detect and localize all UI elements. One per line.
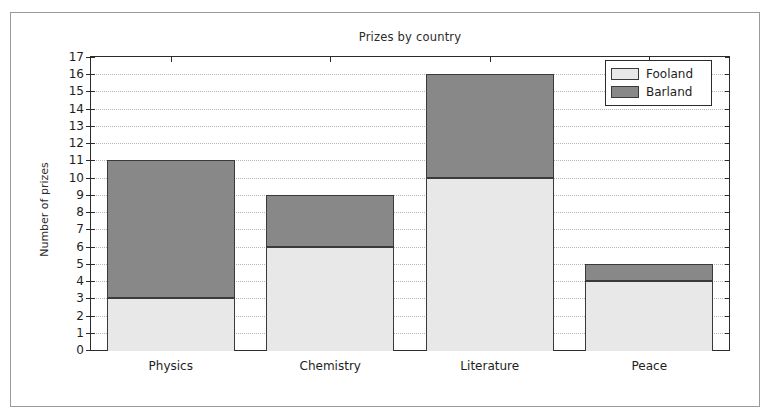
x-axis-tick-label-peace: Peace	[631, 359, 667, 373]
x-axis-tick-label-chemistry: Chemistry	[300, 359, 361, 373]
x-axis-tick-label-physics: Physics	[149, 359, 193, 373]
bar-segment-literature-fooland[interactable]	[426, 178, 554, 352]
bar-segment-peace-fooland[interactable]	[585, 281, 713, 351]
legend-item-barland[interactable]: Barland	[611, 84, 706, 101]
y-axis-label: Number of prizes	[38, 130, 51, 290]
chart-title: Prizes by country	[90, 30, 730, 44]
legend-label: Barland	[646, 86, 692, 98]
legend-label: Fooland	[646, 68, 693, 80]
y-axis-tick-mark-right	[725, 350, 729, 351]
bar-segment-chemistry-barland[interactable]	[266, 195, 394, 247]
bar-segment-physics-fooland[interactable]	[107, 298, 235, 351]
bar-segment-physics-barland[interactable]	[107, 160, 235, 298]
bar-segment-peace-barland[interactable]	[585, 264, 713, 281]
chart-legend[interactable]: FoolandBarland	[605, 60, 712, 106]
legend-swatch-barland	[611, 86, 639, 98]
x-axis-tick-label-literature: Literature	[460, 359, 519, 373]
legend-item-fooland[interactable]: Fooland	[611, 66, 706, 83]
bar-segment-literature-barland[interactable]	[426, 74, 554, 177]
y-axis-tick-mark-inner	[91, 350, 95, 351]
legend-swatch-fooland	[611, 68, 639, 80]
figure-canvas: Prizes by country Number of prizes 01234…	[0, 0, 771, 419]
bar-segment-chemistry-fooland[interactable]	[266, 247, 394, 352]
